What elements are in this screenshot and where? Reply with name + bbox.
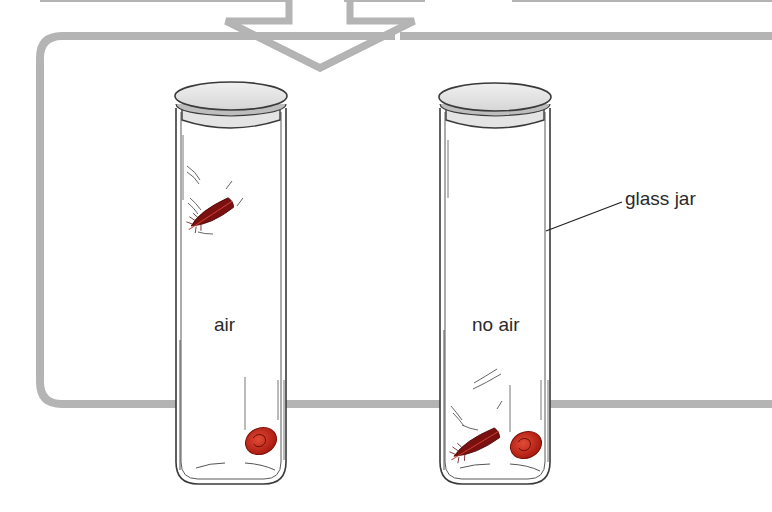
diagram-canvas — [0, 0, 772, 512]
jar-lid — [175, 82, 287, 128]
jar-no-air-label: no air — [472, 314, 520, 336]
jar-no-air — [439, 83, 551, 484]
jar-lid — [439, 83, 551, 128]
jar-air — [175, 82, 287, 484]
jar-air-label: air — [214, 314, 235, 336]
feather-coin-vacuum-diagram: air no air glass jar — [0, 0, 772, 512]
comparison-panel-frame — [40, 21, 772, 404]
callout-leader-line — [546, 202, 622, 231]
glass-jar-callout-label: glass jar — [625, 188, 696, 210]
